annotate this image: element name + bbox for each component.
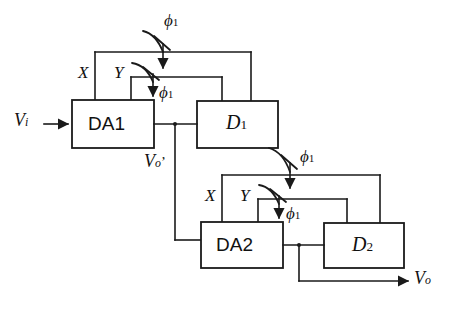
wire-stage1-inner-feedback	[131, 77, 222, 101]
label-d2: D2	[352, 234, 373, 254]
wire-da1-out-to-d1-in	[154, 122, 197, 240]
label-vin: Vi	[14, 111, 28, 129]
label-da1: DA1	[88, 114, 125, 133]
switch-stage2-inner	[259, 185, 286, 218]
wire-da2-out-to-d2-in	[283, 243, 324, 281]
label-stage2-y: Y	[240, 187, 249, 204]
label-stage1-y: Y	[114, 64, 123, 81]
label-stage1-x: X	[78, 64, 88, 81]
diagram-canvas	[0, 0, 456, 318]
label-da2: DA2	[216, 235, 253, 254]
label-d1: D1	[226, 112, 247, 132]
label-phi1-stage1-inner: ϕ1	[159, 84, 173, 101]
label-phi1-stage1-outer: ϕ1	[164, 12, 178, 29]
label-phi1-stage2-inner: ϕ1	[286, 205, 300, 222]
circuit-diagram-figure: Vi DA1 D1 X Y ϕ1 ϕ1 Vo’ ϕ1 X Y ϕ1 DA2 D2…	[0, 0, 456, 318]
label-vout: Vo	[414, 269, 431, 287]
switch-stage1-inner	[132, 63, 159, 96]
label-phi1-stage2-outer: ϕ1	[300, 148, 314, 165]
switch-stage1-outer	[143, 31, 170, 68]
wire-d1-out-to-stage2	[269, 148, 297, 188]
wire-stage2-inner-feedback	[258, 199, 347, 223]
label-vout-prime: Vo’	[144, 152, 166, 170]
label-stage2-x: X	[205, 187, 215, 204]
